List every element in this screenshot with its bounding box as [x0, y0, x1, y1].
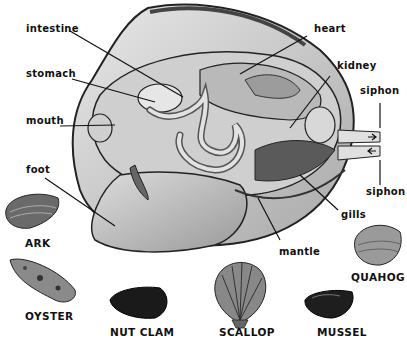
label-intestine: intestine	[26, 24, 79, 34]
caption-mussel: MUSSEL	[317, 327, 367, 338]
clam-illustration	[0, 0, 407, 345]
shell-oyster-image	[10, 259, 75, 302]
label-kidney: kidney	[337, 61, 376, 71]
label-siphon-bottom: siphon	[366, 187, 405, 197]
caption-oyster: OYSTER	[25, 311, 74, 322]
caption-scallop: SCALLOP	[219, 327, 275, 338]
label-foot: foot	[26, 165, 50, 175]
shell-ark-image	[6, 194, 59, 228]
caption-nut-clam: NUT CLAM	[110, 327, 174, 338]
label-stomach: stomach	[26, 69, 76, 79]
caption-quahog: QUAHOG	[351, 272, 405, 283]
label-mouth: mouth	[26, 116, 64, 126]
shell-mussel-image	[305, 290, 353, 318]
shell-quahog-image	[355, 225, 402, 265]
label-heart: heart	[314, 24, 346, 34]
caption-ark: ARK	[25, 238, 51, 249]
shell-scallop-image	[215, 263, 266, 329]
label-siphon-top: siphon	[360, 86, 399, 96]
label-mantle: mantle	[279, 247, 320, 257]
shell-nutclam-image	[110, 287, 167, 318]
label-gills: gills	[341, 210, 366, 220]
